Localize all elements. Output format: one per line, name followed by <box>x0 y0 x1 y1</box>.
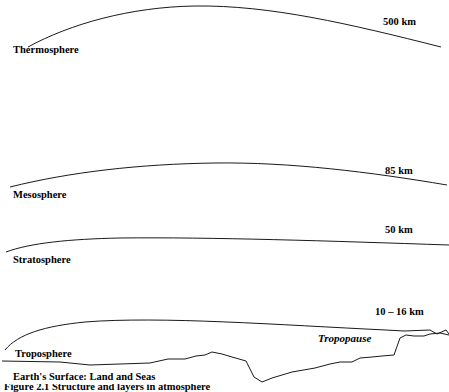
altitude-label-85km: 85 km <box>385 166 413 177</box>
atmosphere-diagram: 500 km 85 km 50 km 10 – 16 km Thermosphe… <box>0 0 449 392</box>
altitude-label-50km: 50 km <box>385 225 413 236</box>
figure-caption-text: Figure 2.1 Structure and layers in atmos… <box>4 384 210 392</box>
tropopause-label: Tropopause <box>318 333 371 344</box>
stratosphere-boundary-curve <box>6 238 449 252</box>
atmosphere-layer-curves <box>0 0 449 392</box>
figure-caption: Figure 2.1 Structure and layers in atmos… <box>0 384 449 392</box>
altitude-label-10-16km: 10 – 16 km <box>375 307 424 318</box>
altitude-label-500km: 500 km <box>383 17 416 28</box>
layer-label-mesosphere: Mesosphere <box>13 190 66 201</box>
thermosphere-boundary-curve <box>28 6 441 47</box>
layer-label-stratosphere: Stratosphere <box>13 255 71 266</box>
earth-surface-label: Earth's Surface: Land and Seas <box>13 372 155 383</box>
tropopause-boundary-curve <box>5 320 449 350</box>
layer-label-thermosphere: Thermosphere <box>13 45 79 56</box>
mesosphere-boundary-curve <box>10 163 447 187</box>
layer-label-troposphere: Troposphere <box>15 349 72 360</box>
